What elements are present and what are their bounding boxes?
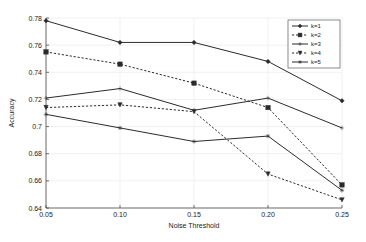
y-tick-label: 0.72 xyxy=(28,96,42,103)
x-tick-label: 0.15 xyxy=(187,211,201,218)
marker-triangle-down xyxy=(340,198,344,202)
legend-label-k1: k=1 xyxy=(311,23,322,29)
legend-label-k3: k=3 xyxy=(311,41,322,47)
x-tick-label: 0.10 xyxy=(113,211,127,218)
marker-diamond xyxy=(266,59,270,63)
x-tick-label: 0.20 xyxy=(261,211,275,218)
marker-square xyxy=(44,50,48,54)
y-tick-label: 0.66 xyxy=(28,177,42,184)
y-tick-label: 0.7 xyxy=(32,123,42,130)
marker-diamond xyxy=(44,19,48,23)
chart-container: 0.640.660.680.70.720.740.760.78 0.050.10… xyxy=(0,0,366,242)
y-tick-label: 0.68 xyxy=(28,150,42,157)
legend-label-k2: k=2 xyxy=(311,32,322,38)
chart-legend: k=1k=2k=3k=4k=5 xyxy=(288,20,340,68)
marker-diamond xyxy=(192,40,196,44)
y-axis-title: Accuracy xyxy=(8,98,16,127)
marker-triangle-down xyxy=(266,172,270,176)
y-tick-label: 0.74 xyxy=(28,69,42,76)
marker-triangle-down xyxy=(192,109,196,113)
legend-label-k5: k=5 xyxy=(311,59,322,65)
x-tick-label: 0.25 xyxy=(335,211,349,218)
x-axis-title: Noise Threshold xyxy=(169,222,220,229)
marker-diamond xyxy=(118,40,122,44)
marker-square xyxy=(118,62,122,66)
marker-square xyxy=(298,33,302,37)
marker-square xyxy=(266,105,270,109)
marker-square xyxy=(340,183,344,187)
y-tick-label: 0.78 xyxy=(28,15,42,22)
x-tick-label: 0.05 xyxy=(39,211,53,218)
marker-square xyxy=(192,81,196,85)
x-axis-ticks: 0.050.100.150.200.25 xyxy=(39,205,349,218)
legend-label-k4: k=4 xyxy=(311,50,322,56)
line-chart: 0.640.660.680.70.720.740.760.78 0.050.10… xyxy=(0,0,366,242)
y-tick-label: 0.76 xyxy=(28,42,42,49)
